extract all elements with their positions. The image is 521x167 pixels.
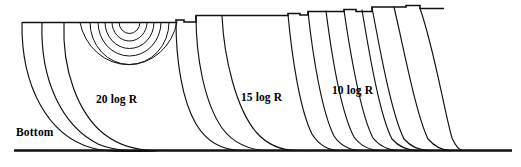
contour-arc-10-4 bbox=[344, 11, 402, 151]
contour-arc-10-1 bbox=[288, 15, 342, 151]
label-bottom: Bottom bbox=[16, 127, 54, 139]
sea-surface-group bbox=[22, 6, 444, 23]
contour-arc-15-3 bbox=[222, 16, 300, 151]
contour-arc-20-2 bbox=[112, 23, 147, 41]
figure-root: 20 log R 15 log R 10 log R Bottom bbox=[0, 0, 521, 167]
label-15-log-r: 15 log R bbox=[241, 92, 282, 104]
contour-arc-10-7 bbox=[394, 7, 452, 151]
contour-arc-20-1 bbox=[119, 23, 140, 34]
contour-arc-20-5 bbox=[90, 23, 169, 65]
label-10-log-r: 10 log R bbox=[332, 85, 373, 97]
contour-arc-10-8 bbox=[420, 9, 464, 151]
contour-arc-15-2 bbox=[196, 16, 272, 151]
sea-surface-line bbox=[22, 6, 444, 23]
transmission-loss-diagram bbox=[0, 0, 521, 167]
contour-arc-10-2 bbox=[308, 12, 364, 151]
contour-arc-10-5 bbox=[362, 10, 420, 151]
label-20-log-r: 20 log R bbox=[96, 94, 137, 106]
contours-15-log-r bbox=[176, 16, 300, 151]
contours-10-log-r bbox=[288, 7, 464, 151]
contour-arc-10-6 bbox=[372, 8, 432, 151]
contour-arc-20-4 bbox=[98, 23, 161, 57]
